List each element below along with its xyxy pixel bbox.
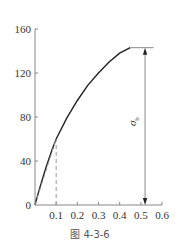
y-tick-label: 40 (20, 155, 32, 167)
figure-caption: 图 4-3-6 (0, 226, 180, 241)
x-tick-label: 0.6 (155, 209, 169, 221)
x-tick-label: 0.4 (113, 209, 127, 221)
sigma-b-label: σb (126, 117, 141, 126)
x-tick-label: 0.3 (92, 209, 106, 221)
x-tick-label: 0.5 (134, 209, 148, 221)
x-tick-label: 0.1 (49, 209, 63, 221)
dashed-reference-line (35, 139, 56, 205)
y-tick-label: 80 (20, 111, 32, 123)
y-tick-label: 120 (15, 67, 32, 79)
y-tick-label: 160 (15, 23, 32, 35)
y-tick-label: 0 (26, 199, 32, 211)
arrow-up-icon (143, 48, 147, 55)
stress-strain-curve (35, 48, 130, 205)
stress-strain-chart: 040801201600.10.20.30.40.50.6 (0, 0, 180, 250)
x-tick-label: 0.2 (70, 209, 84, 221)
arrow-down-icon (143, 198, 147, 205)
